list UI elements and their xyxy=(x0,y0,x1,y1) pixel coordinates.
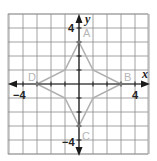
y-tick-neg4: −4 xyxy=(62,136,75,148)
x-tick-neg4: −4 xyxy=(13,89,26,101)
point-label-a: A xyxy=(83,27,91,39)
coordinate-plane: x y 4 −4 4 −4 A B C D xyxy=(0,0,157,161)
arrow-up-icon xyxy=(76,14,83,23)
x-tick-4: 4 xyxy=(132,89,139,101)
point-label-d: D xyxy=(28,71,36,83)
y-tick-4: 4 xyxy=(68,22,75,34)
point-label-c: C xyxy=(82,130,90,142)
arrow-down-icon xyxy=(76,147,83,156)
x-axis-label: x xyxy=(141,67,148,81)
point-label-b: B xyxy=(124,71,131,83)
y-axis-label: y xyxy=(83,12,91,26)
